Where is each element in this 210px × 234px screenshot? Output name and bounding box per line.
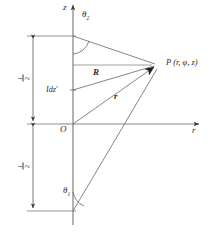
theta2-label: θ2: [82, 10, 89, 21]
source-element-label: Idz′: [46, 86, 58, 94]
rays-to-point-p: [73, 36, 157, 211]
dimension-upper-denominator: 2: [24, 72, 30, 86]
theta1-subscript: 1: [67, 191, 70, 197]
dimension-label-upper: l 2: [17, 72, 30, 86]
vector-r-label: r: [114, 92, 118, 101]
diagram-svg: [0, 0, 210, 234]
angle-arc-theta2: [73, 41, 89, 54]
endpoint-ticks: [27, 36, 76, 211]
figure-canvas: z r O θ2 θ1 Idz′ R r P (r, φ, z) l 2 l 2: [0, 0, 210, 234]
origin-label: O: [60, 125, 67, 134]
dimension-label-lower: l 2: [17, 160, 30, 174]
vector-R-label: R: [93, 68, 99, 77]
point-p-text: P (r, φ, z): [166, 57, 198, 67]
z-axis-label: z: [63, 3, 67, 12]
theta1-label: θ1: [63, 186, 70, 197]
dimension-lower-denominator: 2: [24, 160, 30, 174]
theta2-subscript: 2: [86, 15, 89, 21]
angle-arc-theta1: [73, 192, 84, 206]
r-axis-label: r: [192, 126, 196, 135]
point-p-label: P (r, φ, z): [166, 58, 198, 67]
